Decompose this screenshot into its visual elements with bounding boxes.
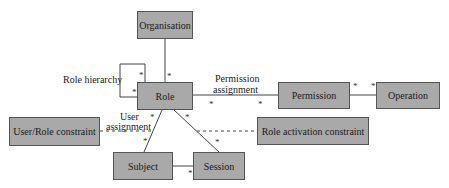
permission-box: Permission [278, 82, 350, 109]
permission-assignment-label-1: Permission [215, 73, 259, 84]
multiplicity-star: * [209, 100, 214, 109]
multiplicity-star: * [188, 169, 193, 178]
operation-box: Operation [376, 82, 440, 109]
multiplicity-star: * [167, 72, 172, 81]
permission-assignment-label-2: assignment [213, 84, 258, 95]
role-box: Role [137, 82, 193, 110]
user-role-constraint-box: User/Role constraint [9, 117, 100, 146]
multiplicity-star: * [139, 71, 144, 80]
multiplicity-star: * [150, 113, 155, 122]
role-hierarchy-label: Role hierarchy [63, 74, 122, 85]
role-activation-constraint-box: Role activation constraint [257, 117, 369, 145]
user-assignment-label-2: assignment [106, 121, 151, 132]
multiplicity-star: * [215, 138, 220, 147]
multiplicity-star: * [371, 82, 376, 91]
organisation-box: Organisation [137, 11, 193, 39]
multiplicity-star: * [258, 100, 263, 109]
session-box: Session [193, 152, 245, 180]
rbac-diagram: Organisation Role Permission Operation U… [0, 0, 449, 188]
multiplicity-star: * [143, 137, 148, 146]
multiplicity-star: * [132, 88, 137, 97]
subject-box: Subject [113, 152, 173, 180]
multiplicity-star: * [185, 113, 190, 122]
multiplicity-star: * [353, 82, 358, 91]
